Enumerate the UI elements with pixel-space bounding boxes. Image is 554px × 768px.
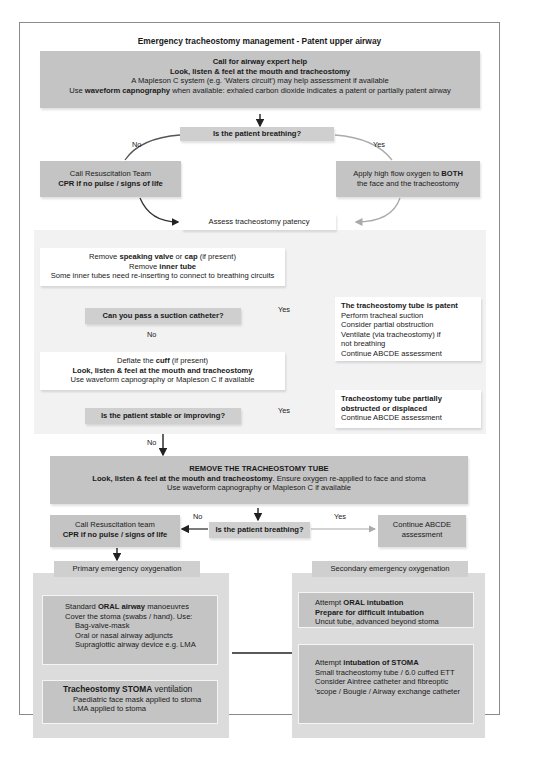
no-label-1: No: [132, 140, 141, 149]
high-flow-oxygen-box: Apply high flow oxygen to BOTH the face …: [336, 161, 480, 197]
yes-label-1: Yes: [373, 140, 385, 149]
yes-label-suction: Yes: [278, 305, 290, 314]
deflate-cuff-box: Deflate the cuff (if present) Look, list…: [40, 352, 285, 390]
no-label-2: No: [193, 512, 202, 521]
call-for-help-box: Call for airway expert help Look, listen…: [40, 51, 480, 108]
call-resuscitation-team-box: Call Resuscitation Team CPR if no pulse …: [40, 161, 181, 197]
tube-patent-box: The tracheostomy tube is patent Perform …: [335, 297, 481, 361]
primary-oxygenation-header: Primary emergency oxygenation: [54, 561, 200, 577]
question-breathing-2: Is the patient breathing?: [209, 522, 310, 538]
oral-intubation-box: Attempt ORAL intubation Prepare for diff…: [298, 592, 474, 628]
remove-speaking-valve-box: Remove speaking valve or cap (if present…: [40, 248, 285, 286]
question-suction-catheter: Can you pass a suction catheter?: [85, 308, 241, 324]
question-breathing-1: Is the patient breathing?: [180, 127, 334, 141]
question-stable-improving: Is the patient stable or improving?: [85, 408, 241, 424]
no-label-stable: No: [147, 438, 156, 447]
oral-airway-box: Standard ORAL airway manoeuvres Cover th…: [42, 595, 218, 665]
assess-patency-box: Assess tracheostomy patency: [182, 214, 336, 230]
continue-abcde-box: Continue ABCDE assessment: [378, 515, 466, 547]
yes-label-2: Yes: [334, 512, 346, 521]
stoma-intubation-box: Attempt intubation of STOMA Small trache…: [298, 644, 474, 724]
no-label-suction: No: [147, 330, 156, 339]
remove-tracheostomy-tube-box: REMOVE THE TRACHEOSTOMY TUBE Look, liste…: [50, 456, 468, 504]
call-resuscitation-team-box-2: Call Resuscitation team CPR if no pulse …: [50, 515, 180, 547]
secondary-oxygenation-header: Secondary emergency oxygenation: [312, 561, 468, 577]
tube-partially-obstructed-box: Tracheostomy tube partially obstructed o…: [335, 390, 481, 428]
stoma-ventilation-box: Tracheostomy STOMA ventilation Paediatri…: [42, 680, 218, 724]
yes-label-stable: Yes: [278, 406, 290, 415]
